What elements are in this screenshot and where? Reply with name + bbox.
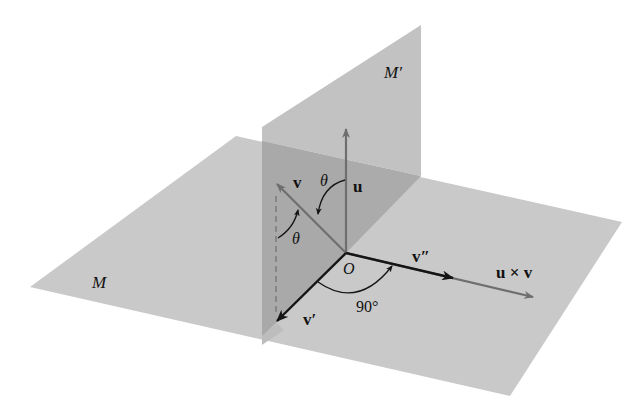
label-theta-upper: θ	[320, 172, 328, 189]
label-plane-m-prime: M′	[383, 63, 402, 82]
label-ninety-degrees: 90°	[356, 298, 378, 315]
label-plane-m: M	[91, 273, 107, 292]
label-v-double-prime: v″	[412, 247, 430, 266]
label-v-prime: v′	[303, 310, 316, 329]
label-theta-lower: θ	[292, 230, 300, 247]
label-v: v	[293, 173, 302, 192]
label-u: u	[353, 177, 362, 196]
label-u-cross-v: u × v	[496, 263, 533, 282]
label-origin: O	[343, 260, 355, 277]
cross-product-diagram: M′ M v θ u θ O v″ u × v 90° v′	[0, 0, 641, 419]
